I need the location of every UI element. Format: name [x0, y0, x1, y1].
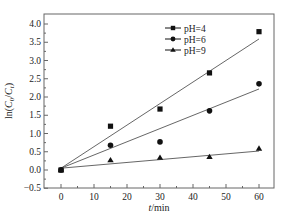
triangle-marker: [107, 157, 113, 162]
circle-marker: [207, 108, 213, 114]
x-axis-title: t/min: [148, 202, 169, 213]
y-tick-label: 2.0: [29, 92, 41, 102]
legend-label: pH=6: [184, 35, 206, 45]
x-tick-label: 30: [155, 192, 165, 202]
x-axis-ticks: 0102030405060: [59, 184, 264, 202]
triangle-marker: [206, 154, 212, 159]
data-markers: [58, 29, 262, 173]
y-tick-label: 1.0: [29, 129, 41, 139]
square-marker: [171, 26, 175, 30]
square-marker: [157, 106, 162, 111]
x-tick-label: 40: [188, 192, 198, 202]
triangle-marker: [256, 145, 262, 150]
circle-marker: [171, 37, 176, 42]
square-marker: [207, 70, 212, 75]
plot-frame: [44, 14, 274, 188]
square-marker: [256, 29, 261, 34]
triangle-marker: [157, 154, 163, 159]
legend-label: pH=4: [184, 24, 206, 34]
square-marker: [108, 124, 113, 129]
x-tick-label: 0: [59, 192, 64, 202]
y-tick-label: 2.5: [29, 74, 41, 84]
fit-lines: [61, 39, 259, 168]
x-tick-label: 50: [221, 192, 231, 202]
y-tick-label: 3.0: [29, 56, 41, 66]
legend-item: pH=9: [165, 46, 206, 56]
y-tick-label: 4.0: [29, 19, 41, 29]
circle-marker: [157, 139, 163, 145]
circle-marker: [108, 142, 114, 148]
legend: pH=4pH=6pH=9: [165, 24, 206, 56]
y-tick-label: 1.5: [29, 110, 41, 120]
chart: −0.50.00.51.01.52.02.53.03.54.0 01020304…: [0, 0, 286, 224]
x-tick-label: 60: [254, 192, 264, 202]
legend-item: pH=4: [165, 24, 206, 34]
fit-line: [61, 39, 259, 168]
legend-label: pH=9: [184, 46, 206, 56]
circle-marker: [256, 81, 262, 87]
x-tick-label: 10: [89, 192, 99, 202]
y-tick-label: 0.0: [29, 165, 41, 175]
x-tick-label: 20: [122, 192, 132, 202]
y-axis-title: ln(C0/Ct): [3, 83, 16, 119]
legend-item: pH=6: [165, 35, 206, 45]
y-tick-label: −0.5: [24, 183, 41, 193]
y-tick-label: 0.5: [29, 147, 41, 157]
y-tick-label: 3.5: [29, 37, 41, 47]
